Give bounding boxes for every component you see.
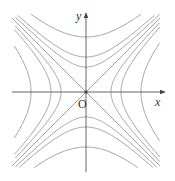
x-axis-label: x: [154, 95, 161, 109]
origin-point: [84, 90, 87, 93]
hyperbola-level-curves-diagram: x y O: [0, 0, 175, 181]
hyperbola-branch: [16, 14, 160, 67]
y-axis-label: y: [75, 9, 82, 23]
origin-label: O: [78, 97, 87, 111]
axes: [12, 12, 166, 172]
x-axis-arrow-icon: [160, 90, 166, 95]
y-axis-arrow-icon: [84, 12, 89, 18]
